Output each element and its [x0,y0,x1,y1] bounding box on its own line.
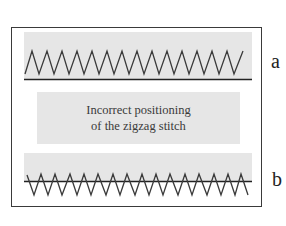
panel-b-label: b [272,168,282,191]
panel-b-zigzag-stitch [0,0,286,226]
